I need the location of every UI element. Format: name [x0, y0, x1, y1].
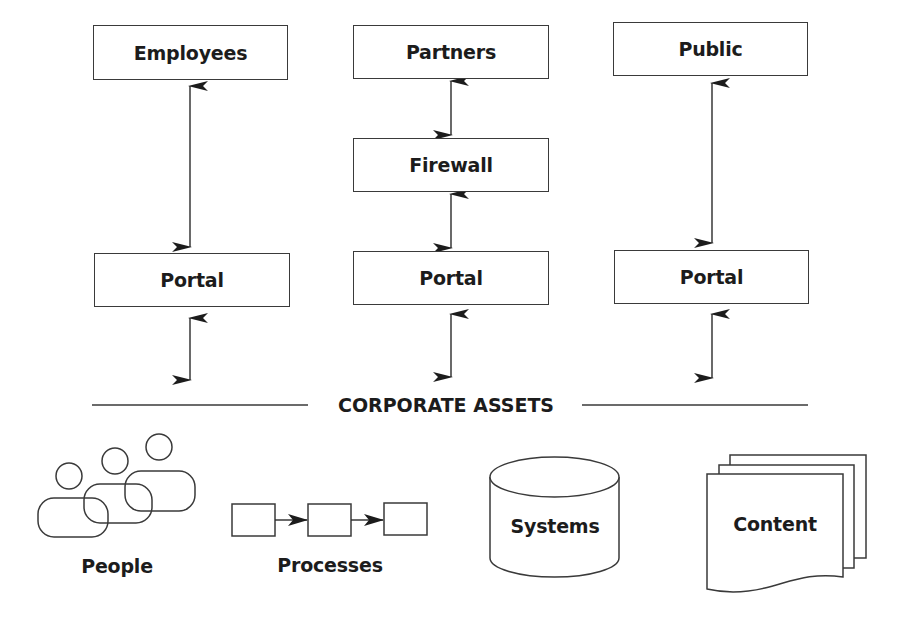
portal-label: Portal — [419, 267, 483, 289]
employees-box: Employees — [93, 25, 288, 80]
public-box: Public — [613, 22, 808, 76]
employees-label: Employees — [134, 42, 248, 64]
firewall-box: Firewall — [353, 138, 549, 192]
systems-label: Systems — [510, 515, 599, 537]
people-icon — [38, 434, 195, 537]
process-flow-icon — [232, 503, 427, 536]
portal-box-public: Portal — [614, 250, 809, 304]
processes-label: Processes — [277, 554, 383, 576]
portal-label: Portal — [680, 266, 744, 288]
portal-box-partners: Portal — [353, 251, 549, 305]
portal-label: Portal — [160, 269, 224, 291]
people-label: People — [81, 555, 153, 577]
corporate-assets-heading: CORPORATE ASSETS — [338, 394, 554, 416]
public-label: Public — [678, 38, 742, 60]
partners-label: Partners — [406, 41, 496, 63]
content-label: Content — [733, 513, 817, 535]
partners-box: Partners — [353, 25, 549, 79]
firewall-label: Firewall — [409, 154, 493, 176]
portal-box-employees: Portal — [94, 253, 290, 307]
